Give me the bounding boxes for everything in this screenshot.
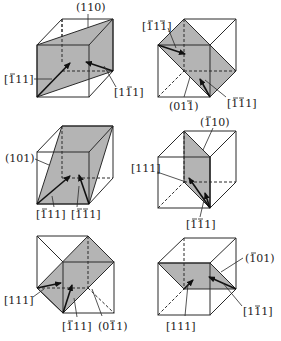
direction-label: [111]	[166, 320, 196, 333]
cube-2: [111] [111] (011)	[142, 19, 257, 113]
direction-label: [111]	[131, 162, 161, 175]
cube-6: (101) [111] [111]	[158, 238, 275, 333]
direction-label: [111]	[142, 20, 172, 33]
plane-label: (110)	[200, 116, 230, 129]
plane-label: (011)	[169, 100, 199, 113]
direction-label: [111]	[62, 320, 92, 333]
direction-label: [111]	[71, 208, 101, 221]
direction-label: [111]	[243, 305, 273, 318]
plane-label: (011)	[98, 320, 128, 333]
crystal-planes-figure: (110) [111] [111] [111] [111] (011)	[0, 0, 281, 341]
direction-label: [111]	[186, 218, 216, 231]
direction-label: [111]	[4, 294, 34, 307]
direction-label: [111]	[4, 73, 34, 86]
plane-label: (101)	[5, 152, 35, 165]
plane-label: (101)	[245, 252, 275, 265]
plane-label: (110)	[76, 1, 106, 14]
direction-label: [111]	[114, 86, 144, 99]
direction-label: [111]	[36, 208, 66, 221]
cube-4: (110) [111] [111]	[131, 116, 236, 231]
direction-label: [111]	[227, 97, 257, 110]
cube-5: [111] [111] (011)	[4, 236, 128, 333]
cube-3: (101) [111] [111]	[5, 126, 113, 221]
cube-1: (110) [111] [111]	[4, 1, 144, 99]
